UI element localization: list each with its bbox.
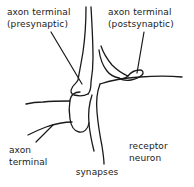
leader-line-presynaptic	[51, 32, 82, 84]
label-line-1: axon	[9, 145, 47, 157]
label-line-2: (postsynaptic)	[108, 19, 174, 31]
label-line-1: axon terminal	[108, 7, 174, 19]
label-line-1: axon terminal	[7, 7, 71, 19]
label-line-1: receptor	[129, 141, 168, 153]
label-receptor-neuron: receptor neuron	[129, 141, 168, 164]
receptor-neuron-contour	[97, 84, 104, 164]
axon-terminal-postsynaptic-upper-edge	[101, 46, 128, 76]
leader-line-postsynaptic	[137, 32, 144, 73]
axon-terminal-bouton-lower	[69, 92, 89, 132]
axon-terminal-presynaptic-left-edge	[71, 7, 88, 96]
label-line-2: (presynaptic)	[7, 19, 71, 31]
label-axon-terminal: axon terminal	[9, 145, 47, 168]
figure-caption: synapses	[0, 167, 194, 179]
label-axon-terminal-postsynaptic: axon terminal (postsynaptic)	[108, 7, 174, 30]
synapse-diagram: axon terminal (presynaptic) axon termina…	[0, 0, 194, 187]
axon-terminal-postsynaptic-lower-edge	[99, 50, 119, 78]
receptor-neuron-upper-membrane	[100, 76, 182, 84]
axon-terminal-shaft-upper	[26, 101, 70, 104]
axon-terminal-presynaptic-right-edge	[88, 7, 93, 94]
label-line-2: neuron	[129, 153, 168, 165]
label-axon-terminal-presynaptic: axon terminal (presynaptic)	[7, 7, 71, 30]
